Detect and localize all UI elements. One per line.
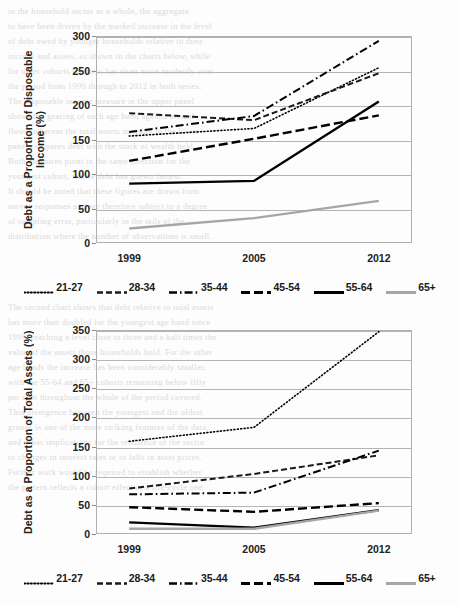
chart-legend: 21-2728-3435-4445-5455-6465+ <box>0 572 460 584</box>
legend-item-35-44[interactable]: 35-44 <box>169 281 227 293</box>
legend-label: 65+ <box>418 572 436 584</box>
chart-debt-to-total-assets: Debt as a Proportion of Total Assets (%)… <box>0 300 460 605</box>
legend-label: 55-64 <box>346 281 372 293</box>
legend-item-65+[interactable]: 65+ <box>386 281 436 293</box>
legend-swatch-dotted-icon <box>24 574 54 583</box>
legend-swatch-solid-icon <box>314 574 344 583</box>
legend-swatch-dashed-icon <box>241 574 271 583</box>
legend-label: 35-44 <box>201 572 227 584</box>
plot-wrapper: Debt as a Proportion of Disposable Incom… <box>0 0 460 300</box>
legend-item-45-54[interactable]: 45-54 <box>241 281 299 293</box>
legend-swatch-dashed-icon <box>241 283 271 292</box>
series-line-65+ <box>129 201 379 229</box>
series-layer <box>0 0 460 300</box>
legend-item-28-34[interactable]: 28-34 <box>97 572 155 584</box>
legend-item-55-64[interactable]: 55-64 <box>314 572 372 584</box>
legend-label: 28-34 <box>129 572 155 584</box>
legend-swatch-solid-icon <box>386 283 416 292</box>
legend-swatch-solid-icon <box>386 574 416 583</box>
legend-label: 65+ <box>418 281 436 293</box>
legend-item-21-27[interactable]: 21-27 <box>24 281 82 293</box>
legend-item-55-64[interactable]: 55-64 <box>314 281 372 293</box>
series-line-28-34 <box>129 455 379 488</box>
legend-item-28-34[interactable]: 28-34 <box>97 281 155 293</box>
chart-legend: 21-2728-3435-4445-5455-6465+ <box>0 281 460 293</box>
series-line-35-44 <box>129 451 379 495</box>
legend-label: 21-27 <box>56 572 82 584</box>
series-line-28-34 <box>129 73 379 120</box>
legend-swatch-dashed-icon <box>97 574 127 583</box>
legend-swatch-dashed-icon <box>97 283 127 292</box>
series-layer <box>0 300 460 605</box>
legend-item-35-44[interactable]: 35-44 <box>169 572 227 584</box>
legend-label: 35-44 <box>201 281 227 293</box>
chart-debt-to-disposable-income: Debt as a Proportion of Disposable Incom… <box>0 0 460 300</box>
legend-swatch-dotted-icon <box>24 283 54 292</box>
legend-swatch-dash-dot-icon <box>169 574 199 583</box>
plot-wrapper: Debt as a Proportion of Total Assets (%)… <box>0 300 460 605</box>
legend-swatch-solid-icon <box>314 283 344 292</box>
series-line-21-27 <box>129 332 379 442</box>
legend-label: 45-54 <box>273 281 299 293</box>
series-line-45-54 <box>129 115 379 161</box>
legend-item-21-27[interactable]: 21-27 <box>24 572 82 584</box>
series-line-45-54 <box>129 503 379 512</box>
legend-label: 45-54 <box>273 572 299 584</box>
legend-item-65+[interactable]: 65+ <box>386 572 436 584</box>
page-background: in the household sector as a whole, the … <box>0 0 460 605</box>
legend-label: 28-34 <box>129 281 155 293</box>
series-line-55-64 <box>129 102 379 184</box>
legend-label: 55-64 <box>346 572 372 584</box>
series-line-65+ <box>129 511 379 529</box>
legend-label: 21-27 <box>56 281 82 293</box>
legend-item-45-54[interactable]: 45-54 <box>241 572 299 584</box>
legend-swatch-dash-dot-icon <box>169 283 199 292</box>
